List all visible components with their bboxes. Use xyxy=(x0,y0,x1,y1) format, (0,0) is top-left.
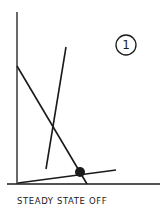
diagram-canvas: 1 xyxy=(0,0,168,210)
steep-line xyxy=(46,47,66,169)
shallow-line xyxy=(18,170,116,183)
number-badge: 1 xyxy=(116,35,136,55)
descending-line xyxy=(17,66,87,184)
diagram-caption: STEADY STATE OFF xyxy=(17,196,107,206)
badge-number: 1 xyxy=(122,38,130,52)
equilibrium-point xyxy=(75,167,85,177)
